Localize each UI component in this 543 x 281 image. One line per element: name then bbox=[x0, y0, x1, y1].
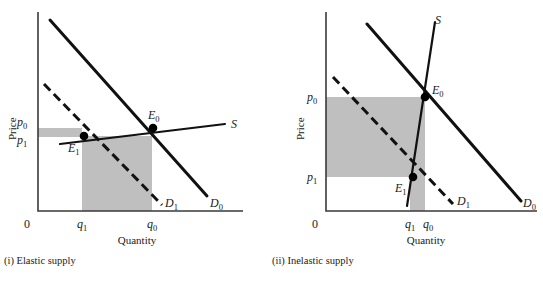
panel-caption: (i) Elastic supply bbox=[4, 255, 76, 267]
economics-figure: Price Quantity 0 p0 p1 q1 q0 E0 E1 S D0 … bbox=[0, 0, 543, 281]
chart-elastic-supply: Price Quantity 0 p0 p1 q1 q0 E0 E1 S D0 … bbox=[0, 0, 272, 281]
quantity-label-q1: q1 bbox=[77, 217, 87, 233]
quantity-label-q0: q0 bbox=[423, 217, 433, 233]
equilibrium-label-e1: E1 bbox=[67, 141, 80, 157]
equilibrium-label-e1: E1 bbox=[394, 181, 407, 197]
shaded-revenue-rectangle bbox=[82, 136, 152, 211]
quantity-label-q0: q0 bbox=[147, 217, 157, 233]
origin-label: 0 bbox=[24, 217, 30, 231]
equilibrium-label-e0: E0 bbox=[431, 83, 444, 99]
curve-label-d0: D0 bbox=[209, 196, 223, 212]
panel-elastic-supply: Price Quantity 0 p0 p1 q1 q0 E0 E1 S D0 … bbox=[0, 0, 272, 281]
equilibrium-point-e0 bbox=[421, 93, 430, 102]
curve-label-d0: D0 bbox=[522, 196, 536, 212]
quantity-label-q1: q1 bbox=[405, 217, 415, 233]
equilibrium-label-e0: E0 bbox=[147, 108, 160, 124]
panel-caption: (ii) Inelastic supply bbox=[272, 255, 354, 267]
equilibrium-point-e0 bbox=[149, 124, 158, 133]
shaded-revenue-rectangle bbox=[326, 97, 425, 177]
curve-label-d1: D1 bbox=[456, 194, 470, 210]
shaded-price-band bbox=[38, 128, 82, 137]
equilibrium-point-e1 bbox=[409, 173, 418, 182]
curve-label-d1: D1 bbox=[164, 196, 178, 212]
price-label-p0: p0 bbox=[306, 90, 317, 106]
price-label-p1: p1 bbox=[16, 133, 27, 149]
x-axis-title: Quantity bbox=[118, 234, 157, 246]
x-axis-title: Quantity bbox=[407, 234, 446, 246]
price-label-p0: p0 bbox=[16, 115, 27, 131]
price-label-p1: p1 bbox=[306, 170, 317, 186]
curve-label-s: S bbox=[435, 13, 441, 27]
shaded-revenue-sliver bbox=[410, 177, 425, 211]
panel-inelastic-supply: Price Quantity 0 p0 p1 q1 q0 E0 E1 S D0 … bbox=[271, 0, 543, 281]
y-axis-title: Price bbox=[294, 117, 306, 140]
curve-label-s: S bbox=[231, 117, 237, 131]
chart-inelastic-supply: Price Quantity 0 p0 p1 q1 q0 E0 E1 S D0 … bbox=[271, 0, 543, 281]
origin-label: 0 bbox=[312, 217, 318, 231]
equilibrium-point-e1 bbox=[80, 132, 89, 141]
